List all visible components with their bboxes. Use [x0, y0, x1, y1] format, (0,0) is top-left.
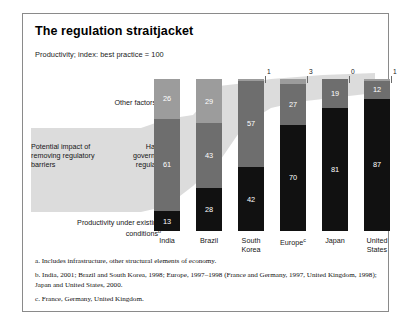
- footnotes: a. Includes infrastructure, other struct…: [35, 257, 379, 309]
- footnote-marker-c: c: [303, 237, 306, 243]
- bar-segment-mid: 19: [322, 79, 348, 108]
- bar-segment-bot: 42: [238, 167, 264, 231]
- x-axis-label-brazil: Brazil: [186, 236, 232, 245]
- bar-top-annotation: 3: [309, 68, 313, 75]
- figure-card: The regulation straitjacket Productivity…: [22, 13, 389, 312]
- footnote-c: c. France, Germany, United Kingdom.: [35, 295, 379, 305]
- bar-segment-top: 29: [196, 79, 222, 123]
- footnote-b: b. India, 2001; Brazil and South Korea, …: [35, 271, 379, 290]
- bar-top-tick: [265, 76, 266, 83]
- bar-europe: 2770: [280, 66, 306, 231]
- bar-segment-bot: 70: [280, 125, 306, 231]
- page-title: The regulation straitjacket: [35, 24, 193, 38]
- bar-segment-mid: 61: [154, 119, 180, 212]
- label-other-factors: Other factorsa: [69, 96, 159, 108]
- label-potential-impact: Potential impact of removing regulatory …: [31, 142, 115, 170]
- x-axis-label-europe: Europec: [270, 236, 316, 247]
- bar-segment-bot: 13: [154, 211, 180, 231]
- bar-top-tick: [349, 76, 350, 83]
- chart-subtitle: Productivity; index: best practice = 100: [35, 50, 164, 59]
- bar-segment-mid: 57: [238, 81, 264, 168]
- bar-united-states: 1287: [364, 66, 390, 231]
- footnote-a: a. Includes infrastructure, other struct…: [35, 257, 379, 267]
- bar-segment-mid: 43: [196, 123, 222, 188]
- bar-india: 266113: [154, 66, 180, 231]
- bar-south-korea: 5742: [238, 66, 264, 231]
- bar-segment-top: 26: [154, 79, 180, 119]
- x-axis-label-india: India: [144, 236, 190, 245]
- bar-segment-bot: 28: [196, 188, 222, 231]
- figure-page: The regulation straitjacket Productivity…: [0, 0, 412, 333]
- bar-japan: 1981: [322, 66, 348, 231]
- bar-top-annotation: 0: [351, 68, 355, 75]
- chart-plot-area: Other factorsa Potential impact of remov…: [23, 66, 388, 246]
- x-axis-label-south-korea: SouthKorea: [228, 236, 274, 254]
- bar-segment-mid: 12: [364, 81, 390, 99]
- x-axis-label-japan: Japan: [312, 236, 358, 245]
- bar-segment-bot: 87: [364, 99, 390, 231]
- bar-segment-mid: 27: [280, 84, 306, 125]
- bar-segment-bot: 81: [322, 108, 348, 231]
- bar-top-tick: [307, 76, 308, 83]
- bar-top-tick: [391, 76, 392, 83]
- bar-brazil: 294328: [196, 66, 222, 231]
- bar-top-annotation: 1: [393, 68, 397, 75]
- bar-top-annotation: 1: [267, 68, 271, 75]
- x-axis-label-united-states: UnitedStates: [354, 236, 400, 254]
